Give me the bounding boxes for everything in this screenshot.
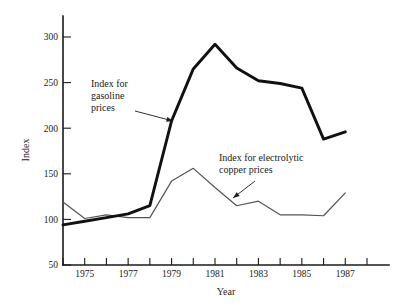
x-tick-label: 1981 [206, 269, 225, 279]
x-tick-label: 1985 [292, 269, 311, 279]
series-line-copper [63, 168, 345, 218]
x-axis-ticks: 1975197719791981198319851987 [63, 258, 367, 279]
y-tick-label: 50 [49, 260, 59, 270]
line-chart-canvas: 50100150200250300 1975197719791981198319… [0, 0, 395, 308]
gasoline-annotation-text: Index forgasolineprices [91, 78, 129, 113]
y-axis-ticks: 50100150200250300 [44, 32, 71, 270]
chart-figure: 50100150200250300 1975197719791981198319… [0, 0, 395, 308]
annotation-line: gasoline [91, 90, 125, 101]
y-tick-label: 200 [44, 124, 59, 134]
y-axis-title: Index [20, 139, 31, 162]
x-tick-label: 1979 [162, 269, 181, 279]
x-tick-label: 1977 [119, 269, 138, 279]
y-tick-label: 100 [44, 215, 59, 225]
annotation-line: Index for electrolytic [219, 152, 304, 163]
x-tick-label: 1975 [75, 269, 94, 279]
axis-group [63, 16, 389, 265]
y-tick-label: 250 [44, 78, 59, 88]
x-tick-label: 1987 [336, 269, 355, 279]
annotation-group: Index forgasolinepricesIndex for electro… [91, 78, 304, 198]
x-tick-label: 1983 [249, 269, 268, 279]
copper-annotation-arrow-head [233, 192, 240, 198]
annotation-line: prices [91, 102, 115, 113]
gasoline-annotation: Index forgasolineprices [91, 78, 173, 122]
annotation-line: Index for [91, 78, 129, 89]
annotation-line: copper prices [219, 164, 273, 175]
copper-annotation: Index for electrolyticcopper prices [219, 152, 304, 198]
x-axis-title: Year [217, 286, 236, 297]
copper-annotation-text: Index for electrolyticcopper prices [219, 152, 304, 175]
y-tick-label: 300 [44, 32, 59, 42]
y-tick-label: 150 [44, 169, 59, 179]
series-line-gasoline [63, 44, 345, 225]
